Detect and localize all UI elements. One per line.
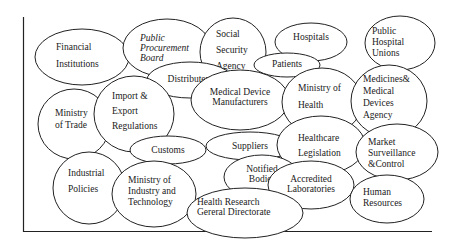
node-label-line: Technology bbox=[128, 197, 173, 207]
node-health-research-directorate: Health ResearchGereral Directorate bbox=[187, 188, 303, 238]
node-label: AccreditedLaboratories bbox=[287, 174, 335, 194]
node-label-line: Social bbox=[216, 29, 240, 39]
node-label-line: Gereral Directorate bbox=[197, 207, 271, 217]
node-label-line: Surveillance bbox=[368, 148, 415, 158]
node-label-line: Health Research bbox=[197, 197, 260, 207]
node-label-line: Customs bbox=[151, 145, 185, 155]
node-financial-institutions: FinancialInstitutions bbox=[35, 29, 129, 85]
node-label: Suppliers bbox=[232, 141, 268, 151]
node-label-line: Notified bbox=[246, 164, 278, 174]
node-label-line: Unions bbox=[372, 48, 400, 58]
node-label-line: Patients bbox=[272, 59, 302, 69]
node-market-surveillance-control: MarketSurveillance&Control bbox=[356, 124, 438, 180]
node-label: Hospitals bbox=[293, 32, 329, 42]
node-label-line: Suppliers bbox=[232, 141, 268, 151]
node-label-line: Manufacturers bbox=[212, 97, 268, 107]
node-customs: Customs bbox=[130, 136, 206, 164]
node-label-line: Human bbox=[363, 187, 391, 197]
node-label-line: &Control bbox=[368, 159, 405, 169]
node-label-line: Industry and bbox=[128, 186, 176, 196]
node-public-hospital-unions: PublicHospitalUnions bbox=[365, 16, 435, 70]
node-label-line: Medical bbox=[363, 86, 394, 96]
node-label-line: Security bbox=[216, 45, 248, 55]
node-label-line: Hospitals bbox=[293, 32, 329, 42]
node-label-line: Ministry bbox=[55, 108, 88, 118]
node-label-line: Legislation bbox=[298, 148, 341, 158]
node-label: Ministry ofIndustry andTechnology bbox=[128, 175, 176, 207]
node-label-line: Ministry of bbox=[298, 83, 342, 93]
node-label-line: Regulations bbox=[112, 121, 158, 131]
node-label: Customs bbox=[151, 145, 185, 155]
node-human-resources: HumanResources bbox=[350, 175, 424, 223]
node-label: Patients bbox=[272, 59, 302, 69]
node-ellipse bbox=[35, 29, 129, 85]
node-label-line: Public bbox=[139, 33, 166, 43]
node-label-line: Policies bbox=[68, 184, 98, 194]
node-label-line: Devices bbox=[363, 98, 394, 108]
node-label-line: Procurement bbox=[139, 43, 189, 53]
node-ministry-of-industry-technology: Ministry ofIndustry andTechnology bbox=[112, 161, 196, 227]
node-label-line: Board bbox=[140, 53, 164, 63]
node-label-line: Export bbox=[112, 106, 138, 116]
node-label-line: Medicines& bbox=[363, 74, 411, 84]
node-label-line: Import & bbox=[112, 91, 148, 101]
node-label-line: Market bbox=[368, 137, 396, 147]
node-label-line: Ministry of bbox=[128, 175, 172, 185]
node-label-line: Laboratories bbox=[287, 184, 335, 194]
node-label-line: Hospital bbox=[372, 37, 405, 47]
node-label-line: Financial bbox=[56, 42, 92, 52]
node-medical-device-manufacturers: Medical DeviceManufacturers bbox=[191, 70, 289, 130]
node-label-line: Public bbox=[372, 26, 396, 36]
stakeholder-diagram: FinancialInstitutionsPublicProcurementBo… bbox=[0, 0, 456, 246]
node-label: Medical DeviceManufacturers bbox=[210, 87, 270, 107]
node-label-line: Healthcare bbox=[298, 133, 339, 143]
node-label-line: Agency bbox=[363, 110, 393, 120]
node-label-line: Industrial bbox=[68, 168, 105, 178]
node-label-line: Medical Device bbox=[210, 87, 270, 97]
node-label-line: Institutions bbox=[56, 59, 99, 69]
node-label-line: Health bbox=[298, 100, 324, 110]
node-label-line: Accredited bbox=[290, 174, 332, 184]
node-label-line: of Trade bbox=[55, 120, 87, 130]
node-label-line: Resources bbox=[363, 198, 402, 208]
